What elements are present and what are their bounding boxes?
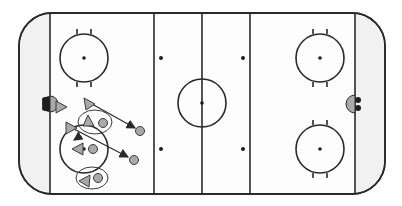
target-t1[interactable]: [136, 127, 145, 136]
neutral-dot-upper-right: [241, 56, 245, 60]
player-defender-d1[interactable]: [99, 119, 108, 128]
player-defender-d3[interactable]: [94, 174, 103, 183]
neutral-dot-upper-left: [159, 56, 163, 60]
neutral-dot-lower-right: [241, 147, 245, 151]
player-defender-d2[interactable]: [89, 145, 98, 154]
neutral-dot-lower-left: [159, 147, 163, 151]
rink-svg: [0, 0, 402, 206]
center-faceoff-dot: [200, 101, 204, 105]
target-t2[interactable]: [130, 156, 139, 165]
rink-diagram: [0, 0, 402, 206]
right-end-boards-area: [352, 14, 384, 193]
